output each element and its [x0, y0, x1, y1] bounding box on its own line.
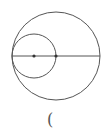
outer-center-point — [54, 54, 57, 57]
diagram-figure — [0, 0, 107, 110]
inner-center-point — [32, 54, 35, 57]
caption-text: ( — [47, 112, 53, 128]
